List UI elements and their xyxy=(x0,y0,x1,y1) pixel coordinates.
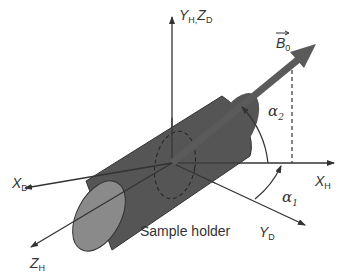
alpha2-label: α2 xyxy=(268,102,284,122)
b0-label: B0 xyxy=(276,31,290,53)
svg-text:B0: B0 xyxy=(276,35,290,53)
alpha1-arc xyxy=(255,166,281,199)
coordinate-diagram: YH,ZD B0 α2 XH α1 XD ZH Sample holder YD xyxy=(0,0,342,277)
y-h-label: YH,ZD xyxy=(179,7,213,25)
sample-holder-label: Sample holder xyxy=(140,223,231,239)
x-d-label: XD xyxy=(11,175,28,193)
x-h-label: XH xyxy=(314,173,331,191)
alpha1-label: α1 xyxy=(282,188,298,208)
y-d-label: YD xyxy=(259,224,275,242)
z-h-label: ZH xyxy=(29,255,45,273)
